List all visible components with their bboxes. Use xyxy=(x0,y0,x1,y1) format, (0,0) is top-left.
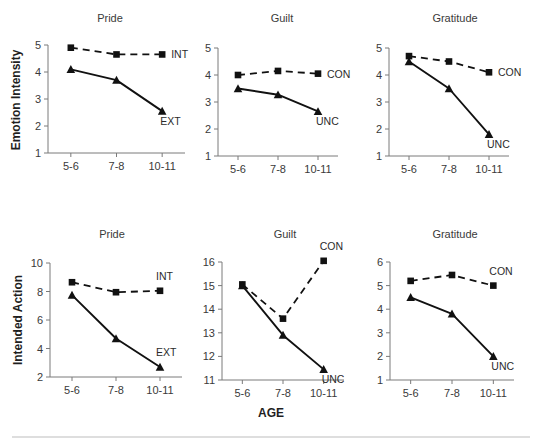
panel-title: Pride xyxy=(97,12,123,24)
data-point-marker-int xyxy=(68,44,75,51)
data-point-marker-con xyxy=(315,70,322,77)
x-tick-label: 5-6 xyxy=(401,163,417,175)
series-label-int: INT xyxy=(171,48,189,60)
y-tick-label: 4 xyxy=(376,69,382,81)
x-tick-label: 7-8 xyxy=(444,387,460,399)
y-tick-label: 13 xyxy=(203,327,215,339)
y-tick-label: 4 xyxy=(205,69,211,81)
y-tick-label: 1 xyxy=(35,147,41,159)
data-point-marker-con xyxy=(446,58,453,65)
y-tick-label: 16 xyxy=(203,256,215,268)
x-tick-label: 10-11 xyxy=(480,387,507,399)
data-point-marker-int xyxy=(113,289,120,296)
data-point-marker-con xyxy=(320,258,327,265)
emotion-development-figure: Pride123455-67-810-11INTEXTGuilt123455-6… xyxy=(0,0,542,445)
x-tick-label: 10-11 xyxy=(475,163,502,175)
y-tick-label: 5 xyxy=(35,39,41,51)
y-tick-label: 12 xyxy=(203,350,215,362)
series-label-unc: UNC xyxy=(491,360,514,372)
data-point-marker-int xyxy=(113,51,120,58)
y-tick-label: 6 xyxy=(377,256,383,268)
y-tick-label: 5 xyxy=(376,42,382,54)
panel-title: Pride xyxy=(99,228,125,240)
series-label-con: CON xyxy=(327,68,350,80)
data-point-marker-con xyxy=(486,69,493,76)
y-tick-label: 3 xyxy=(377,327,383,339)
figure-background xyxy=(0,0,542,445)
data-point-marker-int xyxy=(157,287,164,294)
y-tick-label: 3 xyxy=(35,93,41,105)
x-tick-label: 10-11 xyxy=(310,387,337,399)
y-tick-label: 10 xyxy=(31,257,43,269)
data-point-marker-int xyxy=(69,279,76,286)
y-axis-title-row-2: Intended Action xyxy=(11,275,25,365)
y-tick-label: 2 xyxy=(376,123,382,135)
x-tick-label: 10-11 xyxy=(146,384,173,396)
series-label-unc: UNC xyxy=(316,115,339,127)
panel-title: Guilt xyxy=(271,12,294,24)
y-tick-label: 4 xyxy=(377,303,383,315)
y-tick-label: 14 xyxy=(203,303,215,315)
x-tick-label: 7-8 xyxy=(441,163,457,175)
y-tick-label: 2 xyxy=(377,350,383,362)
y-tick-label: 1 xyxy=(376,150,382,162)
series-label-ext: EXT xyxy=(156,346,177,358)
y-tick-label: 6 xyxy=(37,314,43,326)
y-tick-label: 8 xyxy=(37,286,43,298)
y-tick-label: 5 xyxy=(377,280,383,292)
x-tick-label: 7-8 xyxy=(270,163,286,175)
data-point-marker-con xyxy=(407,278,414,285)
panel-title: Guilt xyxy=(274,228,297,240)
panel-title: Gratitude xyxy=(432,12,477,24)
series-label-unc: UNC xyxy=(487,138,510,150)
x-tick-label: 10-11 xyxy=(149,160,176,172)
x-tick-label: 5-6 xyxy=(230,163,246,175)
series-label-con: CON xyxy=(498,66,521,78)
series-label-unc: UNC xyxy=(322,373,345,385)
panel-title: Gratitude xyxy=(432,228,477,240)
series-label-con: CON xyxy=(320,240,343,252)
y-tick-label: 4 xyxy=(37,343,43,355)
y-tick-label: 11 xyxy=(204,374,215,386)
data-point-marker-con xyxy=(275,68,282,75)
data-point-marker-con xyxy=(280,315,287,322)
x-tick-label: 5-6 xyxy=(64,384,80,396)
x-tick-label: 5-6 xyxy=(63,160,79,172)
data-point-marker-con xyxy=(490,282,497,289)
series-label-int: INT xyxy=(156,270,174,282)
x-tick-label: 10-11 xyxy=(304,163,331,175)
y-tick-label: 4 xyxy=(35,66,41,78)
data-point-marker-con xyxy=(235,72,242,79)
series-label-ext: EXT xyxy=(160,115,181,127)
y-tick-label: 2 xyxy=(35,120,41,132)
y-tick-label: 1 xyxy=(377,374,383,386)
y-tick-label: 3 xyxy=(205,96,211,108)
x-tick-label: 7-8 xyxy=(108,384,124,396)
series-label-con: CON xyxy=(489,265,512,277)
x-tick-label: 5-6 xyxy=(403,387,419,399)
y-tick-label: 15 xyxy=(203,280,215,292)
y-tick-label: 5 xyxy=(205,42,211,54)
x-tick-label: 5-6 xyxy=(234,387,250,399)
data-point-marker-int xyxy=(159,51,166,58)
y-axis-title-row-1: Emotion Intensity xyxy=(9,49,23,150)
x-tick-label: 7-8 xyxy=(109,160,125,172)
y-tick-label: 2 xyxy=(37,371,43,383)
y-tick-label: 1 xyxy=(205,150,211,162)
y-tick-label: 3 xyxy=(376,96,382,108)
data-point-marker-con xyxy=(449,272,456,279)
y-tick-label: 2 xyxy=(205,123,211,135)
x-tick-label: 7-8 xyxy=(275,387,291,399)
x-axis-title: AGE xyxy=(258,406,284,420)
